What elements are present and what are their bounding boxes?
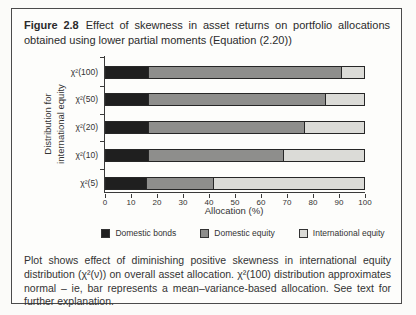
y-axis-tick — [100, 57, 104, 58]
plot-area: χ²(100)χ²(50)χ²(20)χ²(10)χ²(5)0102030405… — [104, 56, 365, 193]
stacked-bar--50- — [105, 93, 365, 106]
bar-segment-domestic-equity — [147, 177, 215, 190]
bar-segment-domestic-equity — [149, 121, 305, 134]
figure-caption: Plot shows effect of diminishing positiv… — [24, 254, 391, 309]
bar-segment-domestic-bonds — [105, 177, 147, 190]
stacked-bar--10- — [105, 149, 365, 162]
figure-box: Figure 2.8Effect of skewness in asset re… — [11, 8, 402, 304]
y-axis-tick — [100, 141, 104, 142]
bar-segment-domestic-bonds — [105, 93, 149, 106]
bar-segment-international-equity — [214, 177, 365, 190]
bar-segment-domestic-bonds — [105, 149, 149, 162]
legend-item-international-equity: International equity — [299, 228, 385, 238]
legend-item-domestic-bonds: Domestic bonds — [101, 228, 176, 238]
bar-segment-domestic-equity — [149, 66, 341, 79]
bar-segment-domestic-equity — [149, 149, 284, 162]
x-axis-tick — [365, 194, 366, 198]
bar-segment-domestic-bonds — [105, 121, 149, 134]
bar-segment-domestic-equity — [149, 93, 326, 106]
x-axis-title: Allocation (%) — [104, 205, 364, 216]
stacked-bar--5- — [105, 177, 365, 190]
legend-swatch-international-equity — [299, 229, 308, 238]
y-axis-tick — [100, 86, 104, 87]
x-axis-tick — [287, 194, 288, 198]
x-axis-tick — [313, 194, 314, 198]
legend-swatch-domestic-equity — [200, 229, 209, 238]
bar-segment-international-equity — [305, 121, 365, 134]
x-axis-tick — [157, 194, 158, 198]
legend-label: Domestic equity — [214, 228, 274, 238]
legend-swatch-domestic-bonds — [101, 229, 110, 238]
bar-segment-domestic-bonds — [105, 66, 149, 79]
stacked-bar--20- — [105, 121, 365, 134]
figure-title: Figure 2.8Effect of skewness in asset re… — [24, 18, 390, 47]
y-axis-category-label: χ²(20) — [46, 120, 98, 135]
legend-item-domestic-equity: Domestic equity — [200, 228, 274, 238]
y-axis-category-label: χ²(10) — [46, 148, 98, 163]
x-axis-tick — [183, 194, 184, 198]
stacked-bar--100- — [105, 66, 365, 79]
y-axis-tick — [100, 114, 104, 115]
bar-segment-international-equity — [342, 66, 365, 79]
x-axis-tick — [131, 194, 132, 198]
legend-label: Domestic bonds — [115, 228, 176, 238]
y-axis-category-label: χ²(5) — [46, 176, 98, 191]
y-axis-category-label: χ²(50) — [46, 92, 98, 107]
y-axis-category-label: χ²(100) — [46, 65, 98, 80]
figure-number: Figure 2.8 — [24, 19, 79, 31]
x-axis-tick — [209, 194, 210, 198]
x-axis-tick — [105, 194, 106, 198]
x-axis-tick — [235, 194, 236, 198]
bar-segment-international-equity — [326, 93, 365, 106]
bar-segment-international-equity — [284, 149, 365, 162]
y-axis-tick — [100, 169, 104, 170]
legend: Domestic bondsDomestic equityInternation… — [87, 228, 399, 238]
legend-label: International equity — [313, 228, 385, 238]
x-axis-tick — [261, 194, 262, 198]
x-axis-tick — [339, 194, 340, 198]
